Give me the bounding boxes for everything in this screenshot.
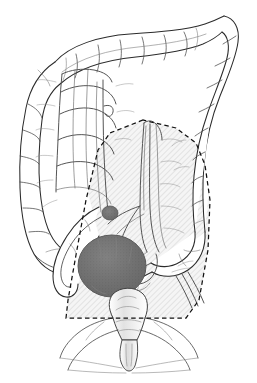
anal-canal <box>120 340 138 371</box>
illustration-canvas: Large bowel with sigmoid colon tumour an… <box>0 0 257 383</box>
lymph-node <box>102 206 118 220</box>
primary-tumor <box>78 235 146 297</box>
colon-anatomy-diagram <box>0 0 257 383</box>
